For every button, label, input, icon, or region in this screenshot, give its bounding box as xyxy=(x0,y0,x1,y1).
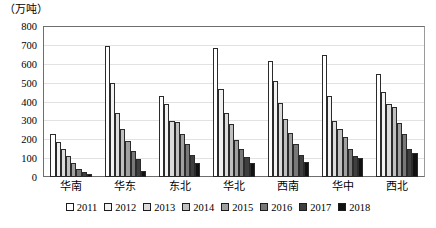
bar-group xyxy=(315,27,369,177)
x-axis-category-labels: 华南华东东北华北西南华中西北 xyxy=(44,179,424,196)
legend-label: 2012 xyxy=(115,202,136,213)
bar-group xyxy=(370,27,424,177)
x-axis-label: 华南 xyxy=(44,179,98,196)
bar[interactable] xyxy=(250,163,255,177)
y-tick-label: 400 xyxy=(21,96,37,107)
bar-group xyxy=(44,27,98,177)
y-tick-label: 800 xyxy=(21,21,37,32)
bar[interactable] xyxy=(304,162,309,177)
bar-group xyxy=(98,27,152,177)
y-tick-label: 200 xyxy=(21,134,37,145)
legend-label: 2018 xyxy=(349,202,370,213)
y-tick-label: 600 xyxy=(21,58,37,69)
legend-swatch-icon xyxy=(104,203,112,211)
legend-label: 2011 xyxy=(77,202,98,213)
legend-swatch-icon xyxy=(221,203,229,211)
legend-item[interactable]: 2018 xyxy=(338,202,370,213)
legend-label: 2016 xyxy=(271,202,292,213)
legend-label: 2013 xyxy=(154,202,175,213)
bar[interactable] xyxy=(412,153,417,177)
legend-label: 2015 xyxy=(232,202,253,213)
bar[interactable] xyxy=(195,163,200,177)
bar[interactable] xyxy=(358,158,363,177)
legend-swatch-icon xyxy=(260,203,268,211)
legend-swatch-icon xyxy=(338,203,346,211)
x-axis-label: 东北 xyxy=(153,179,207,196)
bar-chart: （万吨） 8007006005004003002001000 华南华东东北华北西… xyxy=(0,0,436,228)
legend-item[interactable]: 2013 xyxy=(143,202,175,213)
legend-swatch-icon xyxy=(299,203,307,211)
legend-label: 2014 xyxy=(193,202,214,213)
bar-group xyxy=(153,27,207,177)
y-tick-label: 300 xyxy=(21,115,37,126)
y-tick-label: 700 xyxy=(21,39,37,50)
legend-label: 2017 xyxy=(310,202,331,213)
bar[interactable] xyxy=(141,171,146,177)
bar-group xyxy=(207,27,261,177)
legend-item[interactable]: 2016 xyxy=(260,202,292,213)
legend-item[interactable]: 2014 xyxy=(182,202,214,213)
y-tick-label: 100 xyxy=(21,153,37,164)
legend-item[interactable]: 2012 xyxy=(104,202,136,213)
y-tick-label: 500 xyxy=(21,77,37,88)
bar-groups-container xyxy=(44,27,424,177)
x-axis-label: 西南 xyxy=(261,179,315,196)
y-axis-unit-label: （万吨） xyxy=(4,3,48,16)
legend-swatch-icon xyxy=(143,203,151,211)
bar[interactable] xyxy=(87,174,92,177)
y-tick-label: 0 xyxy=(32,172,37,183)
legend-item[interactable]: 2011 xyxy=(66,202,98,213)
bar-group xyxy=(261,27,315,177)
legend-item[interactable]: 2015 xyxy=(221,202,253,213)
legend-swatch-icon xyxy=(66,203,74,211)
legend-item[interactable]: 2017 xyxy=(299,202,331,213)
chart-legend: 20112012201320142015201620172018 xyxy=(0,198,436,216)
x-axis-label: 华中 xyxy=(315,179,369,196)
x-axis-label: 华东 xyxy=(98,179,152,196)
legend-swatch-icon xyxy=(182,203,190,211)
x-axis-label: 西北 xyxy=(370,179,424,196)
x-axis-label: 华北 xyxy=(207,179,261,196)
y-axis-tick-labels: 8007006005004003002001000 xyxy=(0,26,40,177)
